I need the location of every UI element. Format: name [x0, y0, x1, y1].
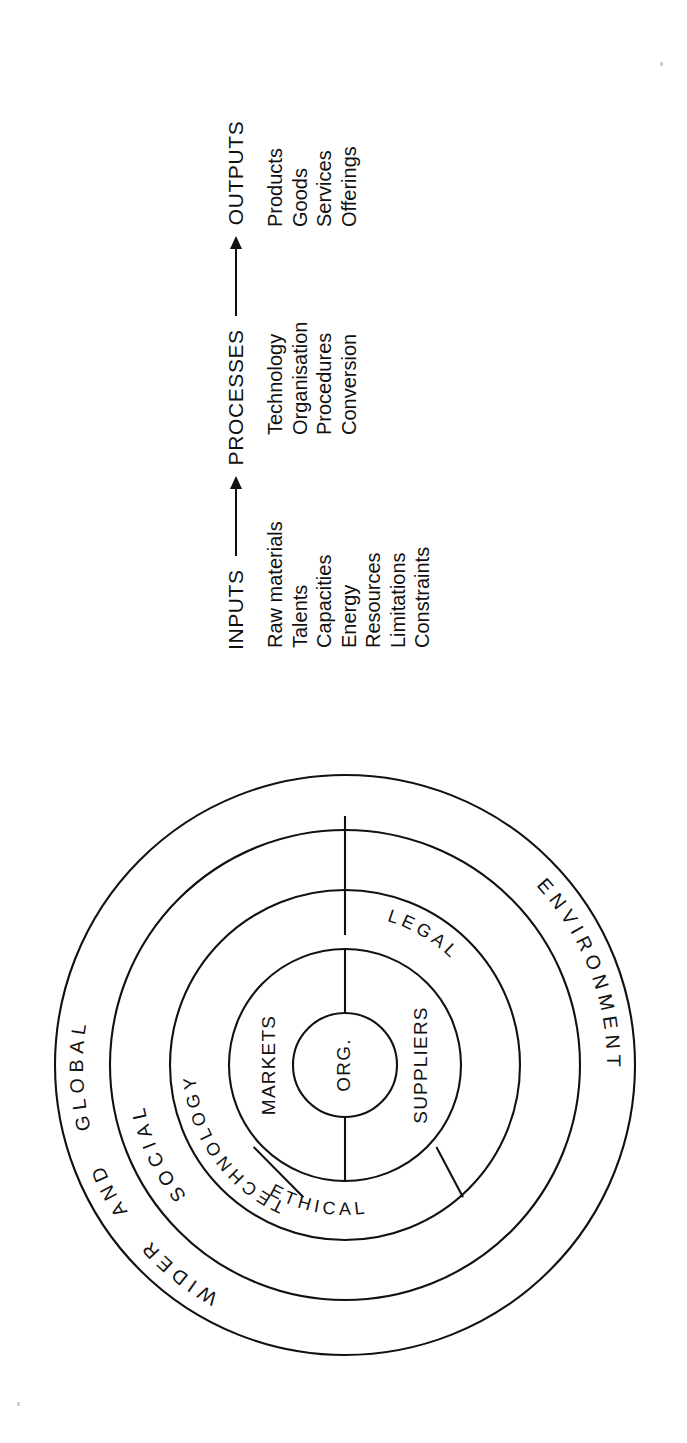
list-item: Organisation: [287, 322, 312, 435]
outputs-list: Products Goods Services Offerings: [263, 146, 361, 227]
list-item: Offerings: [336, 146, 361, 227]
ring3-label-legal: LEGAL: [386, 906, 464, 964]
input-process-output-flow: INPUTS PROCESSES OUTPUTS Raw materials T…: [0, 0, 687, 700]
list-item: Talents: [287, 521, 312, 648]
list-item: Capacities: [312, 521, 337, 648]
list-item: Constraints: [410, 521, 435, 648]
center-label-org: ORG.: [333, 1038, 354, 1091]
ring4-label-social: SOCIAL: [126, 1101, 190, 1207]
ring5-label-left: WIDER AND GLOBAL: [65, 1017, 221, 1311]
list-item: Procedures: [312, 322, 337, 435]
list-item: Limitations: [385, 521, 410, 648]
flow-rotated-group: INPUTS PROCESSES OUTPUTS Raw materials T…: [219, 30, 469, 650]
scan-speck: [17, 1402, 20, 1406]
scan-speck: [660, 62, 663, 66]
list-item: Conversion: [336, 322, 361, 435]
stage-heading-outputs: OUTPUTS: [224, 121, 248, 226]
list-item: Products: [263, 146, 288, 227]
list-item: Raw materials: [263, 521, 288, 648]
flow-columns: Raw materials Talents Capacities Energy …: [263, 30, 463, 650]
ring2-label-suppliers: SUPPLIERS: [410, 1006, 431, 1123]
arrow-right-icon-2: [235, 238, 237, 316]
ring5-label-left-text: WIDER AND GLOBAL: [65, 1017, 221, 1311]
figure-canvas: INPUTS PROCESSES OUTPUTS Raw materials T…: [0, 0, 687, 1443]
inputs-list: Raw materials Talents Capacities Energy …: [263, 521, 435, 648]
stage-heading-inputs: INPUTS: [224, 569, 248, 650]
list-item: Goods: [287, 146, 312, 227]
processes-list: Technology Organisation Procedures Conve…: [263, 322, 361, 435]
arrow-right-icon-1: [235, 478, 237, 556]
ring3-label-ethical: ETHICAL: [267, 1180, 370, 1219]
list-item: Resources: [361, 521, 386, 648]
flow-heading-row: INPUTS PROCESSES OUTPUTS: [219, 30, 253, 650]
radial-divider-ring3-lower-right: [436, 1147, 463, 1197]
list-item: Technology: [263, 322, 288, 435]
ring2-label-markets: MARKETS: [258, 1015, 279, 1115]
list-item: Services: [312, 146, 337, 227]
concentric-environment-diagram: WIDER AND GLOBAL ENVIRONMENT SOCIAL TECH…: [0, 700, 687, 1443]
stage-heading-processes: PROCESSES: [224, 329, 248, 465]
list-item: Energy: [336, 521, 361, 648]
